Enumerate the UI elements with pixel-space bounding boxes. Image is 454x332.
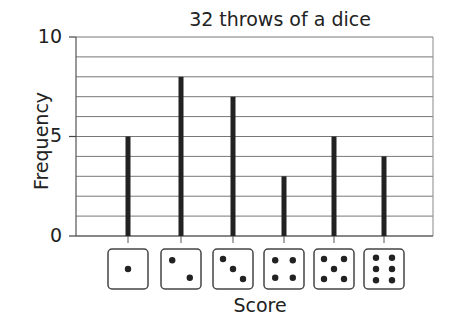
- die-pip: [220, 256, 226, 262]
- plot-area: [0, 0, 454, 332]
- bar-score-6: [382, 156, 387, 236]
- die-pip: [389, 277, 395, 283]
- die-pip: [321, 256, 327, 262]
- bar-score-1: [126, 137, 131, 237]
- die-face-6-icon: [364, 249, 404, 289]
- die-pip: [373, 266, 379, 272]
- die-pip: [230, 266, 236, 272]
- die-pip: [389, 255, 395, 261]
- bar-score-2: [179, 77, 184, 236]
- die-pip: [272, 257, 278, 263]
- die-pip: [272, 275, 278, 281]
- die-pip: [341, 276, 347, 282]
- die-face-4-icon: [264, 249, 304, 289]
- bar-score-4: [282, 176, 287, 236]
- die-pip: [169, 257, 175, 263]
- die-pip: [240, 276, 246, 282]
- die-pip: [373, 255, 379, 261]
- die-pip: [331, 266, 337, 272]
- die-pip: [321, 276, 327, 282]
- die-pip: [125, 266, 131, 272]
- die-pip: [341, 256, 347, 262]
- die-pip: [290, 275, 296, 281]
- die-pip: [389, 266, 395, 272]
- die-pip: [373, 277, 379, 283]
- bar-score-5: [332, 137, 337, 237]
- die-pip: [290, 257, 296, 263]
- bar-score-3: [231, 97, 236, 236]
- die-face-2-icon: [161, 249, 201, 289]
- die-pip: [187, 275, 193, 281]
